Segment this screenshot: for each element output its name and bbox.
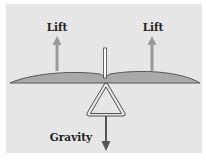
lift-arrow-right [148, 36, 157, 71]
lift-arrow-left [53, 36, 62, 71]
lift-label-left: Lift [47, 21, 68, 33]
mast [104, 48, 107, 78]
gravity-label: Gravity [50, 131, 93, 143]
lift-label-right: Lift [143, 21, 164, 33]
gravity-arrow [102, 116, 111, 151]
control-frame-outer [87, 83, 126, 116]
hang-glider-diagram: Lift Lift Gravity [0, 0, 206, 164]
